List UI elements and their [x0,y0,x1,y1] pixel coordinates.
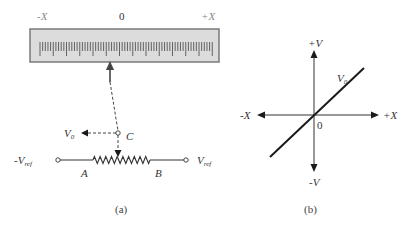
neg-x-arrow-icon [257,112,265,119]
pos-x-label: +X [383,109,398,121]
scale-zero-label: 0 [119,10,125,22]
slider-pointer [106,61,114,82]
terminal-vref [184,158,188,162]
panel-b: +V -V -X +X 0 V0 (b) [240,37,398,216]
line-v0-label: V0 [337,72,348,86]
panel-a: -X 0 +X C V0 -Vref Vref [14,10,219,216]
terminal-c [116,131,120,135]
pos-v-label: +V [308,37,323,49]
potentiometer-resistor [93,157,150,164]
diagram-canvas: -X 0 +X C V0 -Vref Vref [0,0,415,228]
neg-v-label: -V [309,176,321,188]
pos-v-arrow-icon [311,50,318,58]
node-b-label: B [155,167,162,179]
caption-a: (a) [115,203,128,216]
terminal-c-label: C [126,130,134,142]
wiper-arrow-icon [115,150,122,157]
transfer-line [270,68,364,157]
output-v0-label: V0 [64,127,75,141]
mechanical-link [110,82,118,131]
neg-v-arrow-icon [311,164,318,172]
output-arrow-icon [81,130,88,137]
neg-vref-label: -Vref [14,154,33,168]
scale-pos-x-label: +X [201,10,216,22]
vref-label: Vref [197,154,212,168]
neg-x-label: -X [240,109,252,121]
node-a-label: A [80,167,88,179]
scale-neg-x-label: -X [37,10,49,22]
terminal-neg-vref [56,158,60,162]
pos-x-arrow-icon [371,112,379,119]
caption-b: (b) [304,203,317,216]
origin-label: 0 [317,119,323,131]
